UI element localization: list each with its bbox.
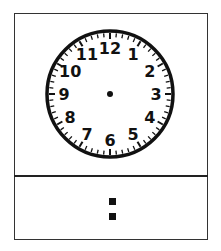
digital-time-panel xyxy=(14,177,208,240)
minute-tick xyxy=(50,81,54,82)
minute-tick xyxy=(122,150,123,154)
hour-numeral-9: 9 xyxy=(58,85,69,104)
hour-numeral-12: 12 xyxy=(99,39,121,58)
minute-tick xyxy=(50,106,54,107)
hour-numeral-6: 6 xyxy=(104,131,115,150)
hour-numeral-4: 4 xyxy=(144,108,155,127)
hour-numeral-2: 2 xyxy=(144,62,155,81)
colon-dot-top xyxy=(109,198,116,205)
minute-tick xyxy=(122,34,123,38)
hour-numeral-11: 11 xyxy=(76,45,98,64)
hours-answer-field[interactable] xyxy=(24,177,104,240)
minute-tick xyxy=(166,106,170,107)
hour-numeral-3: 3 xyxy=(150,85,161,104)
clock-center-dot xyxy=(107,91,113,97)
analog-clock-face: 121234567891011 xyxy=(14,13,208,175)
minutes-answer-field[interactable] xyxy=(118,177,198,240)
hour-numeral-7: 7 xyxy=(81,125,92,144)
analog-clock-panel: 121234567891011 xyxy=(14,13,208,175)
colon-dot-bottom xyxy=(109,213,116,220)
time-colon-separator xyxy=(109,198,117,220)
hour-numeral-1: 1 xyxy=(127,45,138,64)
hour-numeral-5: 5 xyxy=(127,125,138,144)
minute-tick xyxy=(166,81,170,82)
minute-tick xyxy=(97,34,98,38)
minute-tick xyxy=(97,150,98,154)
hour-numeral-8: 8 xyxy=(65,108,76,127)
hour-numeral-10: 10 xyxy=(59,62,81,81)
